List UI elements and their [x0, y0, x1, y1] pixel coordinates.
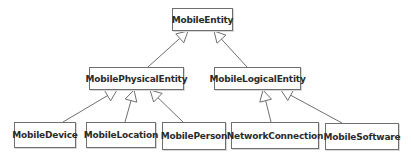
node-label: MobileSoftware — [324, 132, 401, 142]
generalization-line — [125, 101, 131, 122]
generalization-line — [148, 38, 180, 67]
generalization-line — [63, 96, 108, 122]
node-mobile-entity[interactable]: MobileEntity — [172, 8, 233, 31]
node-label: NetworkConnection — [227, 131, 323, 141]
class-diagram-canvas: MobileEntity MobilePhysicalEntity Mobile… — [0, 0, 411, 160]
generalization-line — [158, 98, 183, 122]
node-label: MobileLocation — [84, 130, 158, 140]
node-label: MobileEntity — [172, 15, 234, 25]
hollow-triangle-arrowhead-icon — [260, 90, 272, 102]
node-label: MobilePerson — [161, 131, 228, 141]
node-label: MobileDevice — [12, 130, 77, 140]
node-mobile-device[interactable]: MobileDevice — [14, 122, 76, 148]
hollow-triangle-arrowhead-icon — [176, 31, 188, 43]
node-mobile-logical-entity[interactable]: MobileLogicalEntity — [214, 67, 301, 90]
node-network-connection[interactable]: NetworkConnection — [231, 122, 319, 149]
node-label: MobileLogicalEntity — [209, 74, 305, 84]
generalization-line — [291, 95, 342, 123]
hollow-triangle-arrowhead-icon — [125, 90, 137, 102]
generalization-line — [266, 101, 271, 122]
node-mobile-location[interactable]: MobileLocation — [86, 122, 156, 148]
node-label: MobilePhysicalEntity — [86, 74, 188, 84]
node-mobile-person[interactable]: MobilePerson — [162, 122, 226, 150]
node-mobile-software[interactable]: MobileSoftware — [325, 123, 399, 150]
generalization-line — [221, 39, 247, 67]
node-mobile-physical-entity[interactable]: MobilePhysicalEntity — [89, 67, 184, 90]
hollow-triangle-arrowhead-icon — [105, 90, 118, 101]
